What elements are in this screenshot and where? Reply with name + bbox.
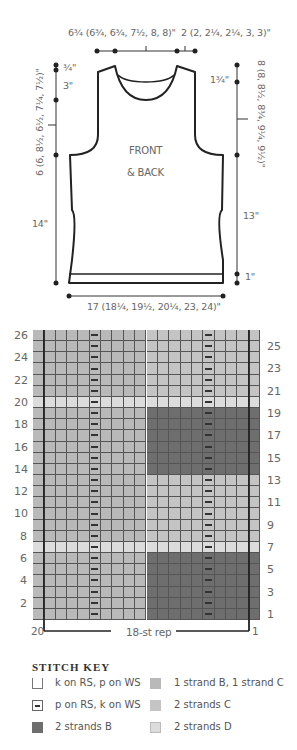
chart-cell — [147, 386, 158, 397]
chart-cell — [192, 564, 203, 575]
chart-cell — [67, 564, 78, 575]
chart-cell — [124, 442, 135, 453]
chart-cell — [147, 408, 158, 419]
chart-cell — [158, 553, 169, 564]
chart-cell — [226, 341, 237, 352]
purl-dash-icon — [205, 602, 212, 604]
row-number: 20 — [14, 396, 28, 409]
chart-cell — [33, 531, 44, 542]
chart-cell — [33, 553, 44, 564]
chart-cell — [124, 587, 135, 598]
chart-cell — [78, 598, 89, 609]
chart-cell — [67, 497, 78, 508]
chart-cell — [112, 375, 123, 386]
chart-cell — [33, 508, 44, 519]
chart-cell — [135, 408, 146, 419]
chart-cell — [249, 542, 260, 553]
chart-cell — [192, 598, 203, 609]
chart-cell — [78, 497, 89, 508]
chart-cell — [112, 497, 123, 508]
chart-cell — [169, 520, 180, 531]
purl-dash-icon — [205, 591, 212, 593]
chart-cell — [147, 486, 158, 497]
chart-cell — [90, 553, 101, 564]
chart-cell — [135, 341, 146, 352]
chart-cell — [181, 575, 192, 586]
stitch-20-label: 20 — [31, 625, 44, 637]
chart-cell — [101, 575, 112, 586]
chart-cell — [237, 363, 248, 374]
chart-cell — [215, 363, 226, 374]
purl-dash-icon — [91, 535, 98, 537]
chart-cell — [169, 442, 180, 453]
chart-cell — [101, 542, 112, 553]
chart-cell — [181, 587, 192, 598]
chart-cell — [90, 408, 101, 419]
chart-cell — [67, 442, 78, 453]
chart-cell — [147, 363, 158, 374]
chart-cell — [135, 609, 146, 620]
chart-cell — [226, 442, 237, 453]
chart-cell — [90, 442, 101, 453]
chart-cell — [90, 363, 101, 374]
purl-dash-icon — [205, 423, 212, 425]
chart-cell — [135, 497, 146, 508]
chart-cell — [237, 575, 248, 586]
chart-cell — [249, 363, 260, 374]
chart-cell — [90, 341, 101, 352]
chart-cell — [192, 341, 203, 352]
chart-cell — [90, 497, 101, 508]
row-number: 13 — [267, 474, 281, 487]
chart-cell — [181, 508, 192, 519]
row-number: 3 — [267, 586, 274, 599]
chart-cell — [215, 520, 226, 531]
chart-cell — [67, 542, 78, 553]
chart-cell — [203, 520, 214, 531]
chart-cell — [78, 486, 89, 497]
purl-dash-icon — [91, 602, 98, 604]
chart-cell — [124, 419, 135, 430]
chart-cell — [33, 442, 44, 453]
chart-cell — [101, 386, 112, 397]
chart-cell — [249, 609, 260, 620]
chart-cell — [124, 475, 135, 486]
chart-cell — [67, 330, 78, 341]
chart-cell — [101, 330, 112, 341]
chart-cell — [112, 386, 123, 397]
left-neckline-label: 3" — [63, 80, 73, 91]
chart-cell — [90, 609, 101, 620]
chart-cell — [124, 508, 135, 519]
chart-cell — [44, 575, 55, 586]
chart-cell — [192, 520, 203, 531]
chart-cell — [90, 508, 101, 519]
chart-cell — [192, 363, 203, 374]
chart-cell — [147, 330, 158, 341]
chart-cell — [147, 531, 158, 542]
chart-cell — [44, 363, 55, 374]
chart-cell — [249, 375, 260, 386]
chart-cell — [56, 464, 67, 475]
chart-cell — [56, 419, 67, 430]
chart-cell — [147, 453, 158, 464]
piece-title-back: & BACK — [127, 167, 164, 178]
chart-cell — [147, 419, 158, 430]
chart-cell — [226, 486, 237, 497]
chart-cell — [147, 497, 158, 508]
chart-cell — [181, 352, 192, 363]
chart-cell — [237, 430, 248, 441]
chart-cell — [101, 352, 112, 363]
repeat-label: 18-st rep — [126, 626, 172, 638]
chart-cell — [169, 430, 180, 441]
chart-cell — [124, 531, 135, 542]
chart-cell — [169, 598, 180, 609]
chart-cell — [44, 598, 55, 609]
purl-dash-icon — [91, 434, 98, 436]
purl-dash-icon — [205, 579, 212, 581]
chart-cell — [147, 375, 158, 386]
purl-dash-icon — [91, 579, 98, 581]
chart-cell — [203, 341, 214, 352]
chart-cell — [203, 564, 214, 575]
chart-cell — [147, 397, 158, 408]
chart-cell — [33, 363, 44, 374]
chart-cell — [101, 341, 112, 352]
